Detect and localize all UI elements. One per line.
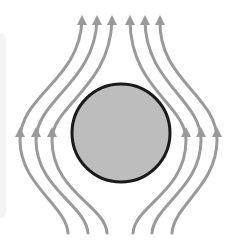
sphere	[72, 84, 170, 182]
arrow-up-icon	[155, 15, 165, 25]
arrow-up-icon	[212, 127, 222, 137]
arrow-up-icon	[31, 127, 41, 137]
arrow-up-icon	[140, 15, 150, 25]
arrow-up-icon	[92, 15, 102, 25]
arrow-up-icon	[125, 15, 135, 25]
arrow-up-icon	[15, 127, 25, 137]
arrow-up-icon	[107, 15, 117, 25]
field-lines-diagram	[0, 0, 237, 250]
arrow-up-icon	[77, 15, 87, 25]
arrow-up-icon	[196, 127, 206, 137]
